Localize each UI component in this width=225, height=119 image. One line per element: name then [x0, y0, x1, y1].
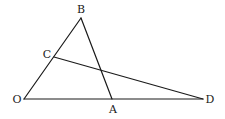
label-B: B — [77, 3, 85, 16]
geometry-diagram: B C O A D — [0, 0, 225, 119]
label-D: D — [206, 93, 215, 106]
segment-BA — [81, 18, 112, 99]
label-A: A — [108, 103, 118, 116]
label-C: C — [43, 48, 51, 61]
label-O: O — [12, 93, 21, 106]
segment-CD — [54, 57, 203, 99]
segment-OB — [24, 18, 81, 99]
